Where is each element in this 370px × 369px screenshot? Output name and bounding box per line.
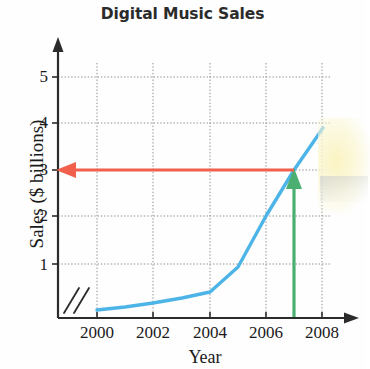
y-axis [52,37,64,318]
x-axis-arrowhead [344,313,359,324]
axis-break-marks [64,288,89,313]
x-axis [58,312,359,324]
vertical-gridlines [97,63,322,317]
green-guide-arrow [286,168,302,317]
red-guide-arrow [56,162,294,178]
y-axis-arrowhead [53,37,64,52]
